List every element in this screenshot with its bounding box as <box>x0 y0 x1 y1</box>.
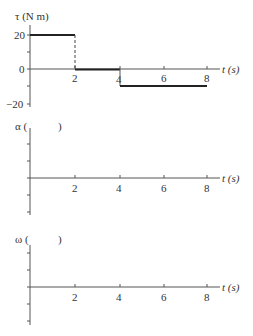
xtick-label-6: 6 <box>161 72 167 84</box>
torque-graph: τ (N m) 20 0 −20 2 4 6 8 t (s) <box>6 10 240 110</box>
xtick-label-8: 8 <box>204 72 210 84</box>
xtick-label-4: 4 <box>116 73 122 85</box>
alpha-xtick-label-2: 2 <box>72 182 78 194</box>
time-axis-label: t (s) <box>222 63 240 76</box>
omega-xtick-label-2: 2 <box>72 291 78 303</box>
ytick-label-neg20: −20 <box>6 98 24 110</box>
omega-graph: ω ( ) 2 4 6 8 t (s) <box>15 233 240 325</box>
omega-xtick-label-4: 4 <box>116 291 122 303</box>
alpha-xtick-label-4: 4 <box>116 182 122 194</box>
torque-axis-label: τ (N m) <box>15 10 49 23</box>
omega-axis-label: ω ( <box>15 233 29 246</box>
torque-alpha-omega-diagram: τ (N m) 20 0 −20 2 4 6 8 t (s) α ( ) <box>0 0 253 336</box>
alpha-xtick-label-8: 8 <box>204 182 210 194</box>
alpha-graph: α ( ) 2 4 6 8 t (s) <box>15 120 240 215</box>
alpha-axis-label: α ( <box>15 120 28 133</box>
omega-axis-label-close: ) <box>58 233 62 246</box>
ytick-label-0: 0 <box>19 63 25 75</box>
xtick-label-2: 2 <box>72 72 78 84</box>
omega-xtick-label-6: 6 <box>161 291 167 303</box>
omega-xtick-label-8: 8 <box>204 291 210 303</box>
alpha-time-label: t (s) <box>222 172 240 185</box>
omega-time-label: t (s) <box>222 281 240 294</box>
alpha-axis-label-close: ) <box>58 120 62 133</box>
alpha-xtick-label-6: 6 <box>161 182 167 194</box>
ytick-label-20: 20 <box>14 29 26 41</box>
